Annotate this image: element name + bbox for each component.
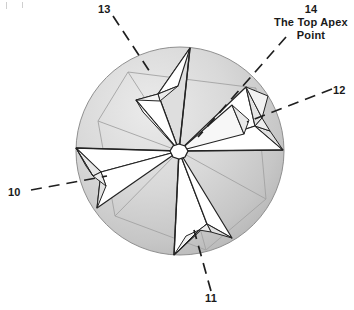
callout-number-14: 14 — [274, 3, 348, 16]
callout-label-13: 13 — [98, 3, 111, 16]
callout-label-10: 10 — [8, 186, 21, 199]
callout-caption-14-line1: The Top Apex — [274, 16, 348, 29]
callout-label-12: 12 — [333, 84, 346, 97]
callout-label-14: 14 The Top Apex Point — [274, 3, 348, 42]
patent-figure-drawing — [0, 0, 354, 310]
top-apex-point — [170, 144, 188, 159]
scan-artifact — [6, 2, 7, 9]
scan-artifact — [22, 2, 23, 8]
callout-caption-14-line2: Point — [274, 29, 348, 42]
callout-label-11: 11 — [205, 292, 217, 305]
